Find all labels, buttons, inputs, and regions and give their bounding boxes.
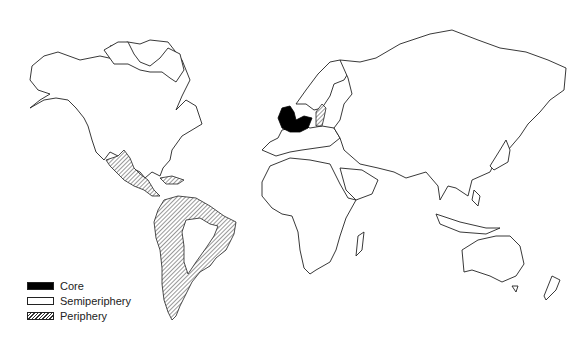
madagascar xyxy=(356,232,364,256)
legend-item-core: Core xyxy=(27,279,131,293)
tasmania xyxy=(512,286,518,292)
legend: Core Semiperiphery Periphery xyxy=(27,279,131,324)
indonesia xyxy=(436,214,500,234)
semiperiphery-swatch-icon xyxy=(27,297,54,305)
scandinavia xyxy=(296,60,350,110)
legend-label: Semiperiphery xyxy=(60,295,131,307)
new-zealand xyxy=(544,276,560,300)
australia xyxy=(462,236,524,282)
legend-label: Core xyxy=(60,280,84,292)
core-swatch-icon xyxy=(27,282,54,290)
periphery-swatch-icon xyxy=(27,312,54,320)
legend-label: Periphery xyxy=(60,310,107,322)
legend-item-semiperiphery: Semiperiphery xyxy=(27,294,131,308)
core-northwest-europe xyxy=(278,106,312,132)
legend-item-periphery: Periphery xyxy=(27,309,131,323)
philippines xyxy=(472,190,480,206)
caribbean-islands xyxy=(160,176,184,184)
